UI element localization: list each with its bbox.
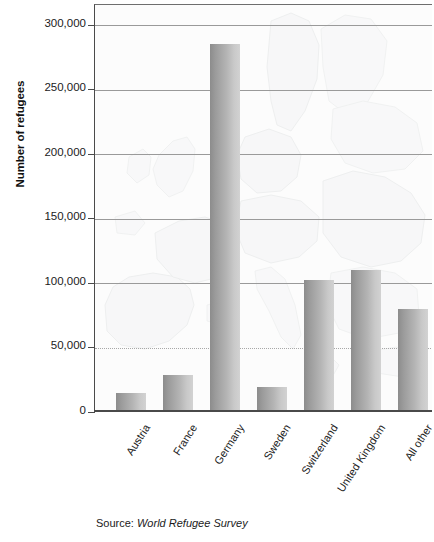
y-axis-tick-label: 300,000: [0, 17, 86, 29]
gridline: [95, 348, 432, 349]
x-axis-tick-label-united-kingdom: United Kingdom: [335, 422, 388, 494]
x-axis-tick-label-austria: Austria: [124, 422, 153, 457]
y-axis-tick-label: 50,000: [0, 339, 86, 351]
y-axis-tick-label: 250,000: [0, 81, 86, 93]
gridline: [95, 283, 432, 284]
bar-france: [163, 375, 193, 412]
y-axis-tick-label: 0: [0, 404, 86, 416]
x-axis-tick-label-germany: Germany: [212, 422, 247, 466]
bar-sweden: [257, 387, 287, 412]
bar-germany: [210, 44, 240, 412]
europe-map-watermark: .land { fill:#f2f3f4; stroke:#d9dcdd; st…: [95, 5, 432, 412]
bar-austria: [116, 393, 146, 412]
gridline: [95, 90, 432, 91]
gridline: [95, 154, 432, 155]
bar-united-kingdom: [351, 270, 381, 412]
plot-area: .land { fill:#f2f3f4; stroke:#d9dcdd; st…: [94, 4, 432, 412]
y-axis-tick-label: 100,000: [0, 275, 86, 287]
x-axis-tick-label-all-other: All other: [402, 422, 434, 462]
y-axis-tick-label: 200,000: [0, 146, 86, 158]
source-title: World Refugee Survey: [137, 517, 248, 529]
source-note: Source: World Refugee Survey: [96, 517, 248, 529]
x-axis-tick-label-switzerland: Switzerland: [299, 422, 340, 476]
y-axis-tick-mark: [88, 412, 95, 413]
gridline: [95, 219, 432, 220]
x-axis-tick-label-sweden: Sweden: [261, 422, 293, 462]
x-axis-tick-label-france: France: [171, 422, 200, 457]
gridline: [95, 25, 432, 26]
bar-switzerland: [304, 280, 334, 412]
y-axis-tick-label: 150,000: [0, 210, 86, 222]
source-label: Source:: [96, 517, 134, 529]
bar-all-other: [398, 309, 428, 412]
y-axis-title: Number of refugees: [14, 54, 26, 214]
